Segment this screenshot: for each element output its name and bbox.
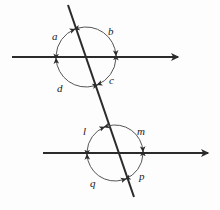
transversal-line <box>68 5 134 197</box>
angle-label-m: m <box>137 126 145 137</box>
angle-label-b: b <box>108 26 114 37</box>
angle-label-q: q <box>90 178 96 189</box>
arc-l <box>87 127 104 151</box>
angle-label-a: a <box>52 31 58 42</box>
angle-label-d: d <box>57 83 63 94</box>
arc-a <box>56 29 75 55</box>
angle-label-c: c <box>109 75 114 86</box>
arcs-layer <box>56 27 143 181</box>
geometry-figure: abcdlmpq <box>0 0 220 210</box>
angle-label-l: l <box>83 126 86 137</box>
angle-label-p: p <box>139 171 145 182</box>
